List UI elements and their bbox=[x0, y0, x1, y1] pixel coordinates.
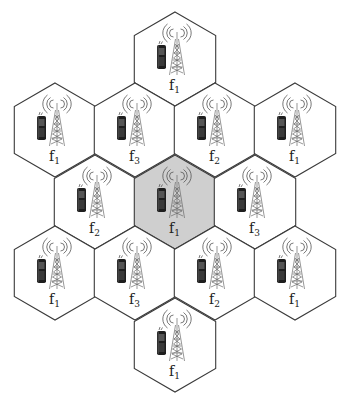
mobile-phone-icon bbox=[197, 255, 206, 283]
mobile-phone-icon bbox=[157, 327, 166, 355]
mobile-phone-icon bbox=[77, 184, 86, 212]
mobile-phone-icon bbox=[117, 112, 126, 140]
mobile-phone-icon bbox=[117, 255, 126, 283]
cells-layer: f1f1f3f2f1f2f1f3f1f3f2f1f1 bbox=[14, 12, 335, 392]
mobile-phone-icon bbox=[157, 184, 166, 212]
mobile-phone-icon bbox=[277, 255, 286, 283]
mobile-phone-icon bbox=[277, 112, 286, 140]
mobile-phone-icon bbox=[197, 112, 206, 140]
hexagonal-cell-diagram: f1f1f3f2f1f2f1f3f1f3f2f1f1 bbox=[0, 0, 352, 405]
mobile-phone-icon bbox=[37, 112, 46, 140]
mobile-phone-icon bbox=[37, 255, 46, 283]
mobile-phone-icon bbox=[237, 184, 246, 212]
mobile-phone-icon bbox=[157, 41, 166, 69]
